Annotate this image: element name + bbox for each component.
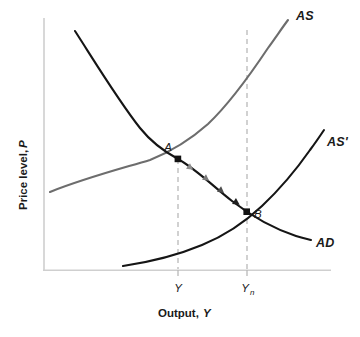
marker-point-b [243,208,250,215]
x-axis-title-plain: Output, [158,307,199,319]
y-axis-title: Price level, P [17,140,29,210]
x-axis-title: Output, Y [158,307,212,319]
x-axis-title-var: Y [203,307,212,319]
marker-point-a [175,156,182,163]
curve-label-as-prime: AS' [326,135,349,149]
tick-label-yn-subscript: n [250,288,255,297]
y-axis-title-plain: Price level, [17,150,29,210]
tick-label-yn: Y n [241,282,255,297]
point-label-a: A [163,141,172,153]
as-ad-diagram-figure: AS AS' AD A B Y Y n Output, Y Price leve… [0,0,360,337]
tick-label-yn-base: Y [241,282,250,294]
point-label-b: B [254,208,262,220]
tick-label-y: Y [174,282,183,294]
curve-label-ad: AD [315,236,334,250]
curve-label-as: AS [295,9,314,23]
y-axis-title-var: P [17,140,29,148]
chart-canvas: AS AS' AD A B Y Y n Output, Y Price leve… [0,0,360,337]
curve-as-prime [123,130,324,266]
